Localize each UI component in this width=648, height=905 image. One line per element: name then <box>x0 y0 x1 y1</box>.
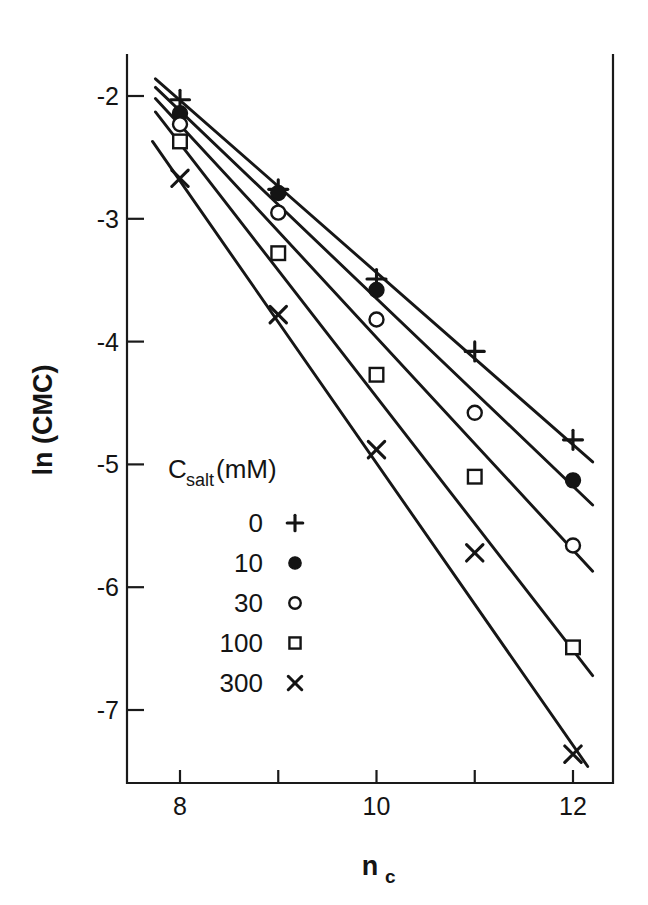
legend-item-label: 100 <box>220 628 263 658</box>
series-fit-lines <box>152 79 592 767</box>
open-circle-marker <box>566 538 580 552</box>
y-tick-label: -5 <box>97 450 119 478</box>
x-axis-ticks <box>180 770 573 783</box>
open-circle-marker <box>289 597 300 608</box>
y-axis-ticks <box>127 96 144 710</box>
x-tick-label: 12 <box>559 792 587 820</box>
fit-line <box>155 98 592 571</box>
series-data-markers <box>171 90 583 762</box>
plot-frame <box>127 55 613 783</box>
cross-marker <box>172 170 188 186</box>
filled-circle-marker <box>369 283 384 298</box>
open-square-marker <box>468 470 482 484</box>
cross-marker <box>368 441 384 457</box>
fit-line <box>155 79 592 462</box>
y-tick-label: -7 <box>97 696 119 724</box>
filled-circle-marker <box>271 186 286 201</box>
cross-marker <box>467 545 483 561</box>
y-tick-label: -6 <box>97 573 119 601</box>
cross-marker <box>288 676 301 689</box>
plus-marker <box>465 342 484 361</box>
cmc-scatter-plot: 81012 -2-3-4-5-6-7 ln (CMC) n c C salt (… <box>0 0 648 905</box>
y-axis-title-text: ln (CMC) <box>28 365 58 476</box>
legend-item-label: 30 <box>234 588 263 618</box>
legend-item-label: 0 <box>249 508 263 538</box>
open-circle-marker <box>468 406 482 420</box>
x-tick-label: 10 <box>363 792 391 820</box>
y-axis-title: ln (CMC) <box>28 365 58 476</box>
fit-line <box>155 112 592 676</box>
x-tick-label: 8 <box>173 792 187 820</box>
y-axis-tick-labels: -2-3-4-5-6-7 <box>97 82 119 724</box>
open-square-marker <box>566 641 580 655</box>
filled-circle-marker <box>566 473 581 488</box>
legend: C salt (mM) 01030100300 <box>168 454 303 698</box>
y-tick-label: -3 <box>97 205 119 233</box>
legend-rows: 01030100300 <box>220 508 303 698</box>
legend-title-main: C <box>168 454 187 484</box>
x-axis-title-text: n <box>362 851 379 881</box>
legend-item-label: 300 <box>220 668 263 698</box>
open-square-marker <box>289 637 300 648</box>
axis-frame-path <box>127 55 613 783</box>
x-axis-tick-labels: 81012 <box>173 792 587 820</box>
legend-item-label: 10 <box>234 548 263 578</box>
open-square-marker <box>271 246 285 260</box>
y-tick-label: -4 <box>97 328 119 356</box>
x-axis-title-subscript: c <box>385 866 396 887</box>
filled-circle-marker <box>289 557 301 569</box>
open-square-marker <box>173 135 187 149</box>
figure-container: 81012 -2-3-4-5-6-7 ln (CMC) n c C salt (… <box>0 0 648 905</box>
plus-marker <box>564 430 583 449</box>
open-circle-marker <box>370 312 384 326</box>
plus-marker <box>287 515 303 531</box>
legend-title-units: (mM) <box>216 454 277 484</box>
x-axis-title: n c <box>362 851 396 887</box>
open-circle-marker <box>173 117 187 131</box>
y-tick-label: -2 <box>97 82 119 110</box>
legend-title-subscript: salt <box>186 470 214 490</box>
open-square-marker <box>370 368 384 382</box>
open-circle-marker <box>271 206 285 220</box>
